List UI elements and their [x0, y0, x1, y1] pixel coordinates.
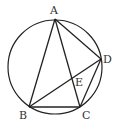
label-d: D [103, 53, 112, 66]
label-e: E [75, 76, 83, 89]
segments [29, 19, 101, 107]
segment-ab [29, 19, 55, 107]
label-b: B [19, 109, 27, 122]
label-a: A [49, 4, 59, 17]
label-c: C [82, 109, 90, 122]
segment-da [55, 19, 101, 59]
geometry-diagram: A B C D E [0, 0, 116, 132]
segment-ac [55, 19, 80, 107]
